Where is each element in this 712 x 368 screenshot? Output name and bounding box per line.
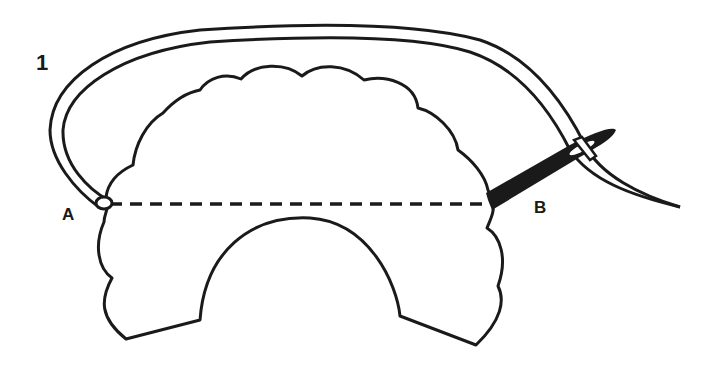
step-number: 1 (36, 50, 48, 75)
needle (486, 129, 616, 210)
sewing-diagram: 1 A B (0, 0, 712, 368)
point-a-label: A (62, 205, 74, 224)
point-b-label: B (534, 198, 546, 217)
thread-end-a (96, 197, 112, 209)
